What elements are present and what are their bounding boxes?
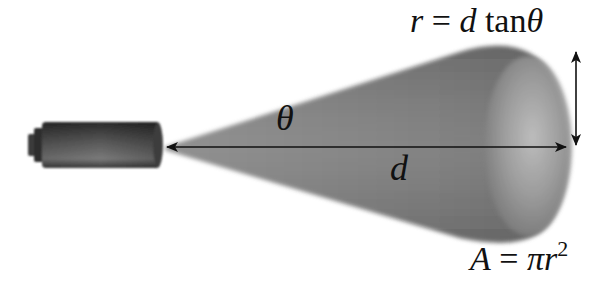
- pi-symbol: π: [527, 240, 544, 277]
- tan-function: tan: [476, 2, 526, 39]
- flashlight: [28, 122, 163, 168]
- theta-symbol: θ: [276, 98, 294, 138]
- distance-symbol: d: [390, 148, 408, 188]
- area-formula: A = πr2: [470, 238, 568, 276]
- theta-symbol: θ: [526, 2, 543, 39]
- radius-formula: r = d tanθ: [410, 4, 543, 38]
- light-cone: [165, 46, 572, 243]
- area-symbol: A: [470, 240, 491, 277]
- exponent: 2: [557, 236, 568, 261]
- radius-symbol: r: [410, 2, 423, 39]
- equals-sign: =: [423, 2, 459, 39]
- angle-label: θ: [276, 100, 294, 136]
- equals-sign: =: [491, 240, 527, 277]
- cone-end-face: [484, 56, 572, 236]
- distance-label: d: [390, 150, 408, 186]
- distance-symbol: d: [459, 2, 476, 39]
- radius-symbol: r: [544, 240, 557, 277]
